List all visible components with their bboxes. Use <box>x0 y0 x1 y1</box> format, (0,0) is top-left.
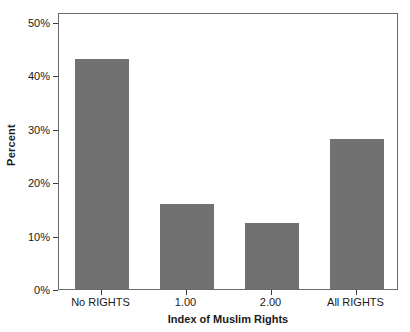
y-axis-tick-mark <box>53 290 58 291</box>
bar <box>160 204 214 289</box>
y-axis-tick-label: 30% <box>6 124 50 136</box>
x-axis-tick-mark <box>186 290 187 295</box>
x-axis-tick-label: All RIGHTS <box>301 296 410 308</box>
y-axis-tick-label: 20% <box>6 177 50 189</box>
bar <box>75 59 129 289</box>
plot-area <box>59 14 397 289</box>
x-axis-tick-mark <box>101 290 102 295</box>
y-axis-tick-label: 0% <box>6 284 50 296</box>
y-axis-tick-labels: 0%10%20%30%40%50% <box>6 0 50 332</box>
bar <box>245 223 299 289</box>
x-axis-tick-mark <box>356 290 357 295</box>
y-axis-tick-label: 10% <box>6 231 50 243</box>
y-axis-tick-label: 50% <box>6 17 50 29</box>
bar-chart: Percent 0%10%20%30%40%50% No RIGHTS1.002… <box>0 0 410 332</box>
y-axis-tick-label: 40% <box>6 70 50 82</box>
bar <box>330 139 384 289</box>
plot-frame <box>58 13 398 290</box>
x-axis-title: Index of Muslim Rights <box>58 313 398 325</box>
x-axis-tick-mark <box>271 290 272 295</box>
